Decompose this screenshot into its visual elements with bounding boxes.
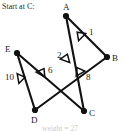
- node-label-B: B: [112, 53, 118, 63]
- weighted-graph-svg: 128610 ABCDE: [0, 0, 123, 131]
- graph-edge-D-B: [35, 57, 107, 110]
- node-labels-group: ABCDE: [5, 2, 118, 125]
- node-label-D: D: [31, 115, 38, 125]
- graph-node-C: [81, 108, 87, 114]
- graph-node-A: [63, 13, 69, 19]
- graph-node-D: [32, 107, 38, 113]
- edges-group: [17, 16, 107, 111]
- edge-weight-A-C: 2: [57, 50, 62, 60]
- edge-weight-E-C: 6: [48, 65, 53, 75]
- edge-weight-E-D: 10: [5, 72, 15, 82]
- edge-weight-D-B: 8: [86, 72, 91, 82]
- graph-node-B: [104, 54, 110, 60]
- node-label-E: E: [5, 44, 11, 54]
- footer-weight-label: weight = 27: [42, 124, 78, 131]
- direction-marker-E-C: [36, 66, 48, 77]
- graph-node-E: [14, 50, 20, 56]
- direction-marker-A-C: [60, 53, 72, 63]
- node-label-C: C: [89, 108, 95, 118]
- edge-weight-A-B: 1: [89, 27, 94, 37]
- graph-diagram-screen: Start at C: 128610 ABCDE weight = 27: [0, 0, 123, 131]
- node-label-A: A: [63, 2, 70, 12]
- arrow-markers-group: [17, 29, 85, 84]
